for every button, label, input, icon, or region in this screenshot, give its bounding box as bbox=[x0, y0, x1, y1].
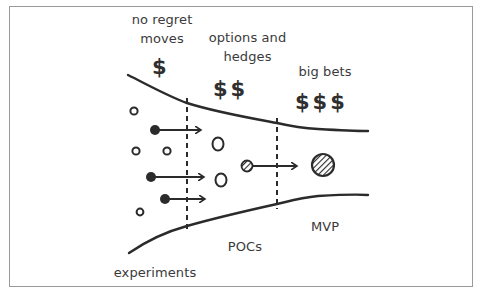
mvp-circle bbox=[312, 154, 334, 176]
label-experiments: experiments bbox=[110, 264, 200, 281]
stage-label-options: options and hedges bbox=[200, 29, 295, 65]
stage-label-line: options and bbox=[200, 29, 295, 46]
cost-indicator-no-regret: $ bbox=[152, 55, 170, 79]
experiment-circle bbox=[163, 147, 170, 154]
experiment-circle bbox=[132, 147, 139, 154]
stage-label-no-regret: no regret moves bbox=[122, 11, 202, 47]
hatched-poc-dot bbox=[242, 161, 253, 172]
poc-circle bbox=[216, 174, 227, 187]
stage-label-line: hedges bbox=[200, 48, 295, 65]
stage-label-line: big bets bbox=[290, 63, 360, 80]
poc-circle bbox=[213, 138, 224, 151]
stage-label-line: moves bbox=[122, 30, 202, 47]
label-pocs: POCs bbox=[220, 238, 270, 255]
experiment-circle bbox=[130, 107, 137, 114]
stage-label-line: no regret bbox=[122, 11, 202, 28]
experiment-circle bbox=[137, 209, 144, 216]
label-mvp: MVP bbox=[300, 218, 350, 235]
stage-label-big-bets: big bets bbox=[290, 63, 360, 80]
cost-indicator-options: $$ bbox=[213, 77, 248, 101]
cost-indicator-big-bets: $$$ bbox=[295, 90, 348, 114]
